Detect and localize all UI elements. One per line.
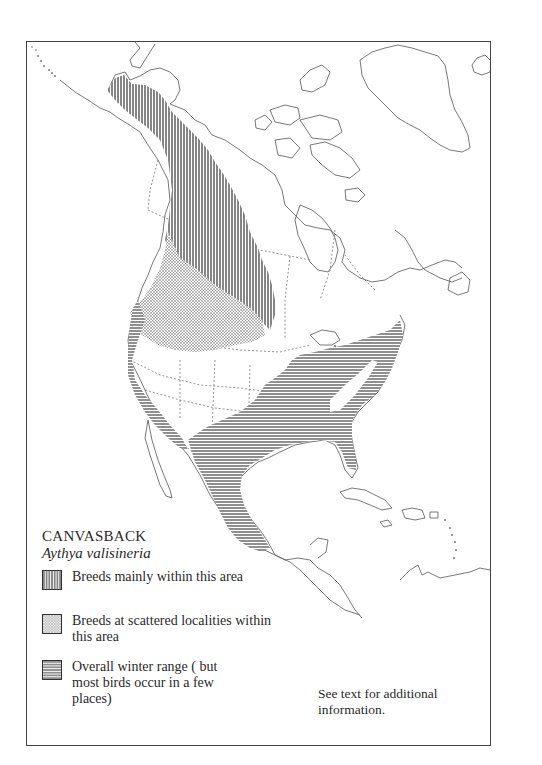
species-scientific-name: Aythya valisineria <box>42 545 151 562</box>
species-title-block: CANVASBACK Aythya valisineria <box>42 528 151 562</box>
legend-label-breeding: Breeds mainly within this area <box>72 569 287 585</box>
stipple-swatch-icon <box>42 614 62 634</box>
aleutian-islands <box>31 46 56 77</box>
newfoundland-outline <box>448 272 470 295</box>
horizontal-hatch-swatch-icon <box>42 660 62 680</box>
greenland-outline <box>360 45 470 152</box>
species-common-name: CANVASBACK <box>42 528 151 545</box>
lesser-antilles <box>444 519 457 559</box>
cuba-outline <box>340 488 392 510</box>
central-america-outline <box>275 555 362 618</box>
hispaniola-outline <box>402 508 425 520</box>
legend-label-scattered-breeding: Breeds at scattered localities within th… <box>72 613 287 645</box>
iceland-outline <box>472 55 492 75</box>
legend-label-winter-range: Overall winter range ( but most birds oc… <box>72 659 232 707</box>
vertical-hatch-swatch-icon <box>42 570 62 590</box>
siberia-outline <box>130 42 155 68</box>
range-map <box>0 0 542 765</box>
hudson-bay-outline <box>295 205 338 272</box>
south-america-coast <box>400 565 490 580</box>
additional-info-note: See text for additional information. <box>318 686 478 718</box>
winter-range-main <box>188 320 403 552</box>
